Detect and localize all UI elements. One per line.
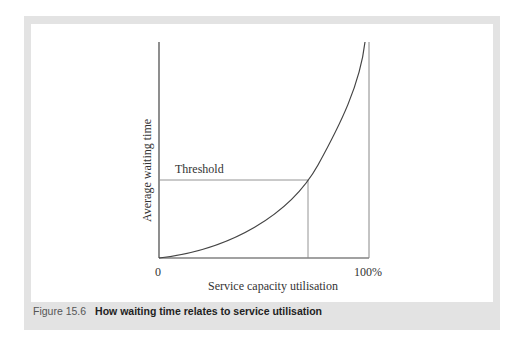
x-tick-100: 100%	[354, 265, 382, 279]
chart-svg: Threshold 0 100% Service capacity utilis…	[0, 0, 524, 341]
threshold-label: Threshold	[175, 162, 224, 176]
x-axis-label: Service capacity utilisation	[208, 279, 338, 293]
y-axis-label: Average waiting time	[140, 119, 154, 222]
x-tick-0: 0	[155, 265, 161, 279]
waiting-time-curve	[159, 42, 365, 258]
